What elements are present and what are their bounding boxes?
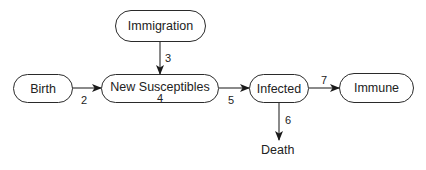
edge-label-2: 2 [81, 95, 87, 106]
edge-label-7: 7 [321, 75, 327, 86]
node-immune: Immune [339, 73, 414, 103]
node-infected: Infected [249, 74, 309, 103]
node-birth: Birth [13, 74, 73, 103]
node-label: Birth [30, 82, 56, 96]
node-label: Infected [257, 82, 301, 96]
node-label: Immune [354, 81, 399, 95]
node-death: Death [261, 144, 294, 157]
edge-label-6: 6 [285, 115, 291, 126]
edge-label-5: 5 [228, 95, 234, 106]
node-immigration: Immigration [115, 10, 206, 42]
node-annotation-new-susceptibles: 4 [157, 93, 163, 104]
edge-label-3: 3 [165, 53, 171, 64]
node-label: Immigration [128, 19, 193, 33]
